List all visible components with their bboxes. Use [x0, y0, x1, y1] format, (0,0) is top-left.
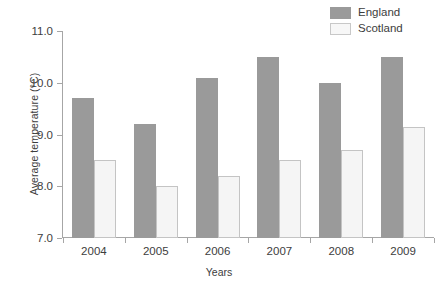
- plot-area: 7.08.09.010.011.0: [62, 31, 434, 238]
- x-tick-label-2009: 2009: [390, 245, 416, 257]
- x-tick-label-2008: 2008: [328, 245, 354, 257]
- bar-scotland-2008: [341, 150, 363, 238]
- bar-england-2007: [257, 57, 279, 238]
- y-tick-label: 10.0: [31, 77, 53, 89]
- bar-england-2004: [72, 98, 94, 238]
- x-tick-mark: [248, 238, 249, 243]
- y-tick-mark: [57, 83, 62, 84]
- x-tick-mark: [125, 238, 126, 243]
- bar-group: [310, 31, 372, 238]
- x-tick-label-2006: 2006: [205, 245, 231, 257]
- y-tick-label: 11.0: [31, 25, 53, 37]
- x-tick-label-2005: 2005: [143, 245, 169, 257]
- bar-group: [372, 31, 434, 238]
- bar-group: [63, 31, 125, 238]
- x-tick-label-2004: 2004: [81, 245, 107, 257]
- bar-england-2009: [381, 57, 403, 238]
- x-tick-mark: [63, 238, 64, 243]
- legend-swatch-england: [330, 7, 351, 19]
- y-tick-mark: [57, 31, 62, 32]
- legend-item-england: England: [330, 6, 403, 19]
- legend-label-england: England: [358, 6, 400, 19]
- x-axis-title: Years: [0, 266, 438, 278]
- x-tick-mark: [372, 238, 373, 243]
- x-tick-label-2007: 2007: [267, 245, 293, 257]
- bar-england-2006: [196, 78, 218, 238]
- y-tick-mark: [57, 186, 62, 187]
- bar-group: [249, 31, 311, 238]
- x-tick-mark: [310, 238, 311, 243]
- bar-england-2005: [134, 124, 156, 238]
- y-tick-label: 7.0: [37, 232, 53, 244]
- y-tick-label: 8.0: [37, 180, 53, 192]
- y-tick-label: 9.0: [37, 129, 53, 141]
- bar-groups: [63, 31, 434, 238]
- x-tick-mark: [187, 238, 188, 243]
- bar-scotland-2009: [403, 127, 425, 238]
- bar-chart: England Scotland Average temperature (°C…: [0, 0, 438, 288]
- bar-group: [125, 31, 187, 238]
- bar-group: [187, 31, 249, 238]
- bar-scotland-2005: [156, 186, 178, 238]
- bar-scotland-2006: [218, 176, 240, 238]
- bar-scotland-2007: [279, 160, 301, 238]
- x-tick-mark: [434, 238, 435, 243]
- bar-england-2008: [319, 83, 341, 238]
- y-tick-mark: [57, 135, 62, 136]
- bar-scotland-2004: [94, 160, 116, 238]
- y-tick-mark: [57, 238, 62, 239]
